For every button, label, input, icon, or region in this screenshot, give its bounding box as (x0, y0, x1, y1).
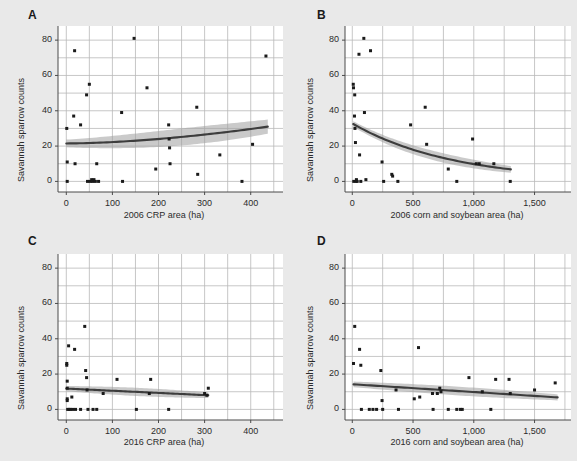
panel-d-x-tick: 1,000 (454, 426, 494, 436)
panel-d-y-tick: 60 (309, 297, 339, 307)
panel-a-y-tick: 60 (22, 69, 52, 79)
panel-a-x-tick: 400 (231, 198, 271, 208)
panel-c-y-tick: 0 (22, 403, 52, 413)
panel-d-x-tick: 1,500 (515, 426, 555, 436)
panel-a-x-tick: 200 (139, 198, 179, 208)
panel-c-y-tick: 80 (22, 262, 52, 272)
panel-d-y-axis-label: Savannah sparrow counts (305, 306, 315, 410)
panel-d-x-tick: 500 (393, 426, 433, 436)
panel-b-y-tick: 40 (309, 105, 339, 115)
panel-c-x-tick: 100 (92, 426, 132, 436)
figure-container: A Savannah sparrow counts 2006 CRP area … (0, 0, 577, 461)
panel-a-y-tick: 40 (22, 105, 52, 115)
panel-d-y-tick: 40 (309, 333, 339, 343)
panel-c-letter: C (28, 234, 37, 248)
panel-d-y-tick: 20 (309, 368, 339, 378)
panel-a-y-axis-label: Savannah sparrow counts (16, 78, 26, 182)
panel-d-y-tick: 0 (309, 403, 339, 413)
panel-b-y-tick: 0 (309, 175, 339, 185)
panel-c-y-axis-label: Savannah sparrow counts (16, 306, 26, 410)
panel-d-x-tick: 0 (332, 426, 372, 436)
panel-c-y-tick: 40 (22, 333, 52, 343)
panel-c-y-tick: 60 (22, 297, 52, 307)
panel-a-x-tick: 0 (46, 198, 86, 208)
panel-b-y-tick: 20 (309, 140, 339, 150)
panel-b-x-tick: 1,500 (515, 198, 555, 208)
panel-a: A Savannah sparrow counts 2006 CRP area … (0, 0, 289, 230)
panel-a-y-tick: 0 (22, 175, 52, 185)
panel-d-letter: D (317, 234, 326, 248)
panel-b-y-tick: 60 (309, 69, 339, 79)
panel-a-y-tick: 80 (22, 34, 52, 44)
panel-a-letter: A (28, 8, 37, 22)
panel-a-x-tick: 300 (185, 198, 225, 208)
panel-c-x-tick: 0 (46, 426, 86, 436)
panel-b-y-tick: 80 (309, 34, 339, 44)
panel-a-y-tick: 20 (22, 140, 52, 150)
panel-b-x-tick: 1,000 (454, 198, 494, 208)
panel-c: C Savannah sparrow counts 2016 CRP area … (0, 230, 289, 461)
panel-c-x-tick: 400 (231, 426, 271, 436)
panel-d: D Savannah sparrow counts 2016 corn and … (289, 230, 577, 461)
panel-c-x-axis-label: 2016 CRP area (ha) (58, 437, 270, 447)
panel-b-x-axis-label: 2006 corn and soybean area (ha) (345, 210, 569, 220)
panel-d-y-tick: 80 (309, 262, 339, 272)
panel-b-letter: B (317, 8, 326, 22)
panel-c-x-tick: 300 (185, 426, 225, 436)
panel-c-y-tick: 20 (22, 368, 52, 378)
panel-b-y-axis-label: Savannah sparrow counts (305, 78, 315, 182)
panel-c-x-tick: 200 (139, 426, 179, 436)
panel-d-x-axis-label: 2016 corn and soybean area (ha) (345, 437, 569, 447)
panel-b-x-tick: 500 (393, 198, 433, 208)
panel-a-x-tick: 100 (92, 198, 132, 208)
panel-a-x-axis-label: 2006 CRP area (ha) (58, 210, 270, 220)
panel-b: B Savannah sparrow counts 2006 corn and … (289, 0, 577, 230)
panel-b-x-tick: 0 (332, 198, 372, 208)
